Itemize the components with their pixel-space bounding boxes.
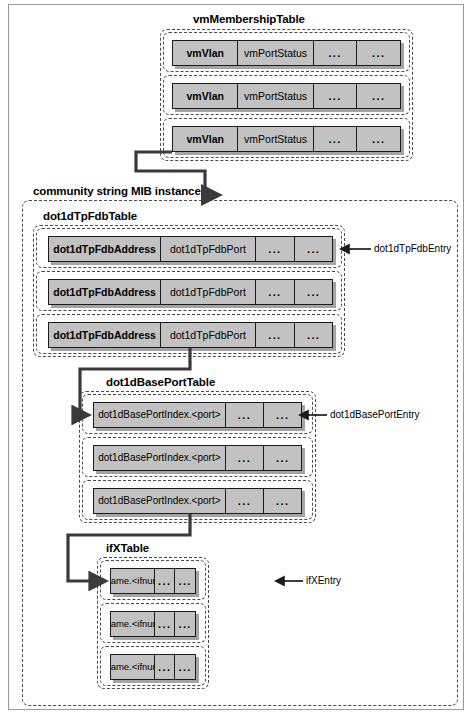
cell: vmVlan <box>173 41 238 65</box>
cell: ... <box>175 612 195 636</box>
dot1dtpfdbtable-label: dot1dTpFdbTable <box>40 211 140 223</box>
cell: ifName.<ifnum> <box>111 655 155 679</box>
cell: dot1dBasePortIndex.<port> <box>94 403 226 427</box>
table-row[interactable]: dot1dTpFdbAddress dot1dTpFdbPort ... ... <box>48 322 333 348</box>
cell: vmPortStatus <box>238 127 313 151</box>
table-row[interactable]: dot1dBasePortIndex.<port> ... ... <box>93 445 302 471</box>
cell: dot1dBasePortIndex.<port> <box>94 446 226 470</box>
cell: vmVlan <box>173 127 238 151</box>
vmmembershiptable-label: vmMembershipTable <box>190 14 308 26</box>
cell: ... <box>256 323 296 347</box>
cell: ... <box>175 655 195 679</box>
cell: ... <box>155 655 175 679</box>
cell: ... <box>175 569 195 593</box>
cell: ... <box>264 446 301 470</box>
cell: ifName.<ifnum> <box>111 612 155 636</box>
table-row[interactable]: dot1dBasePortIndex.<port> ... ... <box>93 402 302 428</box>
cell: dot1dTpFdbAddress <box>49 237 161 261</box>
cell: ... <box>264 489 301 513</box>
cell: ... <box>264 403 301 427</box>
cell: ... <box>226 403 265 427</box>
cell: ... <box>357 127 400 151</box>
table-row[interactable]: ifName.<ifnum> ... ... <box>110 611 196 637</box>
cell: ... <box>314 127 358 151</box>
cell: dot1dTpFdbPort <box>161 237 255 261</box>
cell: ... <box>357 84 400 108</box>
cell: dot1dTpFdbPort <box>161 280 255 304</box>
cell: ... <box>295 323 332 347</box>
table-row[interactable]: dot1dTpFdbAddress dot1dTpFdbPort ... ... <box>48 279 333 305</box>
ifxentry-label: ifXEntry <box>306 576 341 586</box>
cell: ... <box>256 280 296 304</box>
cell: ... <box>314 41 358 65</box>
cell: ... <box>314 84 358 108</box>
cell: ... <box>295 237 332 261</box>
cell: ... <box>226 446 265 470</box>
cell: dot1dBasePortIndex.<port> <box>94 489 226 513</box>
table-row[interactable]: dot1dTpFdbAddress dot1dTpFdbPort ... ... <box>48 236 333 262</box>
table-row[interactable]: vmVlan vmPortStatus ... ... <box>172 126 401 152</box>
cell: dot1dTpFdbAddress <box>49 323 161 347</box>
table-row[interactable]: dot1dBasePortIndex.<port> ... ... <box>93 488 302 514</box>
cell: vmPortStatus <box>238 84 313 108</box>
cell: ... <box>155 569 175 593</box>
diagram-canvas: vmMembershipTable vmVlan vmPortStatus ..… <box>0 0 473 721</box>
cell: ... <box>357 41 400 65</box>
cell: ... <box>226 489 265 513</box>
cell: ... <box>295 280 332 304</box>
community-instance-label: community string MIB instance <box>30 186 204 198</box>
table-row[interactable]: ifName.<ifnum> ... ... <box>110 654 196 680</box>
table-row[interactable]: ifName.<ifnum> ... ... <box>110 568 196 594</box>
dot1dbaseportentry-label: dot1dBasePortEntry <box>330 410 420 420</box>
dot1dbaseporttable-label: dot1dBasePortTable <box>103 377 218 389</box>
cell: ifName.<ifnum> <box>111 569 155 593</box>
cell: ... <box>256 237 296 261</box>
cell: ... <box>155 612 175 636</box>
cell: dot1dTpFdbAddress <box>49 280 161 304</box>
ifxtable-label: ifXTable <box>103 543 152 555</box>
cell: vmPortStatus <box>238 41 313 65</box>
table-row[interactable]: vmVlan vmPortStatus ... ... <box>172 83 401 109</box>
dot1dtpfdbentry-label: dot1dTpFdbEntry <box>374 244 451 254</box>
cell: vmVlan <box>173 84 238 108</box>
cell: dot1dTpFdbPort <box>161 323 255 347</box>
table-row[interactable]: vmVlan vmPortStatus ... ... <box>172 40 401 66</box>
